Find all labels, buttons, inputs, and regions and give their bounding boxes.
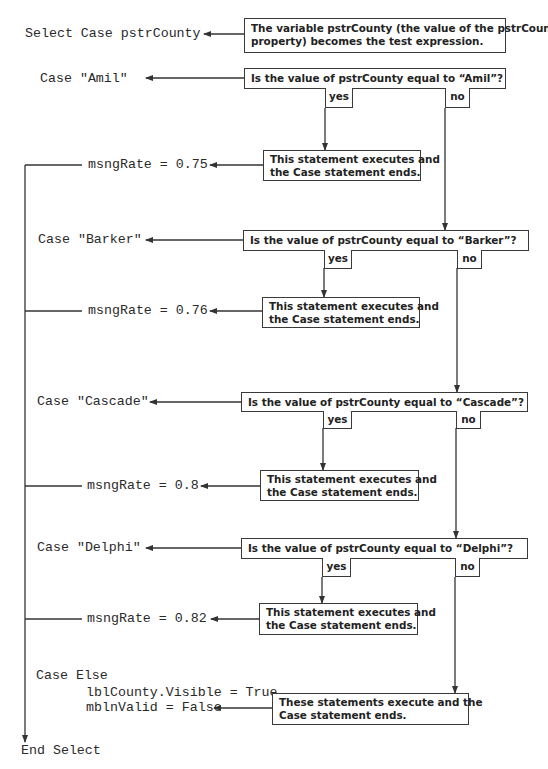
callout-line: This statement executes and	[267, 473, 412, 486]
code-case-cascade: Case "Cascade"	[37, 394, 149, 409]
code-else-statement-2: mblnValid = False	[86, 700, 222, 715]
callout-line: the Case statement ends.	[270, 166, 414, 179]
no-label: no	[456, 411, 481, 429]
yes-label: yes	[322, 558, 351, 577]
callout-line: property) becomes the test expression.	[251, 35, 499, 48]
no-label: no	[445, 88, 470, 108]
executes-box-delphi: This statement executes and the Case sta…	[259, 603, 418, 635]
callout-line: This statement executes and	[266, 606, 411, 619]
question-box-cascade: Is the value of pstrCounty equal to “Cas…	[241, 392, 528, 412]
callout-line: This statement executes and	[270, 153, 414, 166]
yes-label: yes	[324, 250, 352, 269]
callout-line: Case statement ends.	[279, 709, 462, 722]
executes-box-barker: This statement executes and the Case sta…	[262, 297, 420, 328]
callout-line: This statement executes and	[269, 300, 413, 313]
no-label: no	[455, 558, 480, 577]
yes-label: yes	[323, 411, 352, 429]
executes-box-else: These statements execute and the Case st…	[272, 693, 469, 725]
code-end-select: End Select	[21, 743, 101, 758]
question-box-barker: Is the value of pstrCounty equal to “Bar…	[243, 230, 529, 251]
code-else-statement-1: lblCounty.Visible = True	[86, 685, 278, 700]
code-statement-delphi: msngRate = 0.82	[87, 611, 207, 626]
code-case-delphi: Case "Delphi"	[37, 540, 141, 555]
executes-box-amil: This statement executes and the Case sta…	[263, 150, 421, 181]
code-case-else: Case Else	[36, 668, 108, 683]
code-select-case: Select Case pstrCounty	[25, 26, 201, 41]
code-case-barker: Case "Barker"	[38, 232, 142, 247]
yes-label: yes	[325, 88, 353, 108]
code-statement-cascade: msngRate = 0.8	[87, 478, 199, 493]
code-statement-barker: msngRate = 0.76	[88, 303, 208, 318]
callout-test-expression: The variable pstrCounty (the value of th…	[244, 18, 506, 53]
question-box-delphi: Is the value of pstrCounty equal to “Del…	[241, 538, 528, 559]
question-box-amil: Is the value of pstrCounty equal to “Ami…	[244, 68, 506, 89]
callout-line: The variable pstrCounty (the value of th…	[251, 22, 499, 35]
select-case-flow-diagram: Select Case pstrCounty Case "Amil" msngR…	[0, 0, 548, 769]
code-statement-amil: msngRate = 0.75	[88, 157, 208, 172]
no-label: no	[457, 250, 482, 269]
callout-line: These statements execute and the	[279, 696, 462, 709]
executes-box-cascade: This statement executes and the Case sta…	[260, 470, 419, 501]
callout-line: the Case statement ends.	[266, 619, 411, 632]
callout-line: the Case statement ends.	[269, 313, 413, 326]
connector-lines	[0, 0, 548, 769]
code-case-amil: Case "Amil"	[40, 71, 128, 86]
callout-line: the Case statement ends.	[267, 486, 412, 499]
